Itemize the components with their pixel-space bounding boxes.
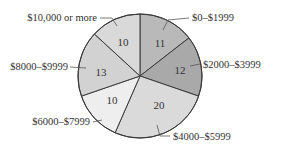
slice-value: 10: [107, 94, 119, 106]
slice-value: 20: [154, 99, 166, 111]
slice-value: 10: [118, 36, 130, 48]
slice-value: 13: [96, 66, 108, 78]
pie-chart: 111220101310 $0–$1999$2000–$3999$4000–$5…: [0, 0, 281, 150]
slice-label: $2000–$3999: [203, 59, 261, 70]
slice-value: 12: [175, 64, 186, 76]
slice-label: $8000–$9999: [10, 61, 68, 72]
slice-label: $4000–$5999: [173, 131, 231, 142]
slice-value: 11: [155, 37, 166, 49]
slice-label: $10,000 or more: [27, 12, 97, 23]
slice-label: $6000–$7999: [32, 116, 90, 127]
slice-label: $0–$1999: [192, 12, 234, 23]
